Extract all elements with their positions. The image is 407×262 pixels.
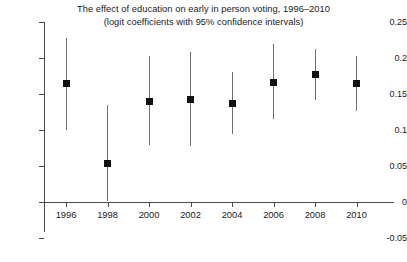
x-axis-tick (274, 202, 275, 207)
x-axis-tick-label: 2004 (212, 210, 252, 220)
data-point-marker (312, 71, 319, 78)
y-axis-tick-label: 0.15 (371, 89, 407, 99)
data-point-marker (187, 96, 194, 103)
y-axis-tick (39, 238, 44, 239)
y-axis-tick-label: -0.05 (371, 233, 407, 243)
x-axis-tick-label: 2006 (254, 210, 294, 220)
y-axis-tick-label: 0.2 (371, 53, 407, 63)
y-axis-tick-label: 0.25 (371, 17, 407, 27)
x-axis-tick-label: 2008 (295, 210, 335, 220)
y-axis-line (44, 22, 45, 232)
data-point-marker (353, 80, 360, 87)
data-point-marker (229, 100, 236, 107)
data-point-marker (270, 79, 277, 86)
y-axis-tick (39, 130, 44, 131)
x-axis-tick-label: 2010 (337, 210, 377, 220)
x-axis-tick (66, 202, 67, 207)
chart-container: The effect of education on early in pers… (0, 0, 407, 262)
y-axis-tick (39, 94, 44, 95)
x-axis-tick (232, 202, 233, 207)
x-axis-tick (191, 202, 192, 207)
data-point-marker (104, 160, 111, 167)
y-axis-tick (39, 202, 44, 203)
x-axis-tick-label: 1996 (46, 210, 86, 220)
x-axis-tick-label: 2002 (171, 210, 211, 220)
y-axis-tick (39, 58, 44, 59)
x-axis-line (44, 202, 394, 203)
x-axis-tick-label: 1998 (88, 210, 128, 220)
y-axis-tick-label: 0.1 (371, 125, 407, 135)
data-point-marker (146, 98, 153, 105)
y-axis-tick (39, 22, 44, 23)
y-axis-tick (39, 166, 44, 167)
data-point-marker (63, 80, 70, 87)
x-axis-tick-label: 2000 (129, 210, 169, 220)
x-axis-tick (315, 202, 316, 207)
x-axis-tick (149, 202, 150, 207)
x-axis-tick (357, 202, 358, 207)
x-axis-tick (108, 202, 109, 207)
plot-area: 0.250.20.150.10.050-0.05 199619982000200… (0, 0, 407, 262)
confidence-interval-bar (107, 105, 108, 201)
y-axis-tick-label: 0 (371, 197, 407, 207)
y-axis-tick-label: 0.05 (371, 161, 407, 171)
